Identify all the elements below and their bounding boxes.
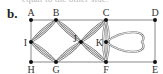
edge-I-G-2-outline bbox=[31, 42, 56, 62]
node-labels: ABCDEFGHIJK bbox=[24, 7, 159, 74]
node-label-F: F bbox=[103, 64, 109, 74]
node-label-G: G bbox=[52, 64, 59, 74]
node-label-I: I bbox=[24, 37, 27, 48]
node-label-C: C bbox=[103, 7, 110, 18]
node-label-D: D bbox=[151, 7, 158, 18]
node-C bbox=[104, 18, 108, 22]
node-label-J: J bbox=[73, 33, 77, 44]
edge-I-B-2-outline bbox=[31, 20, 56, 42]
node-label-K: K bbox=[96, 37, 104, 48]
node-I bbox=[29, 40, 33, 44]
node-A bbox=[29, 18, 33, 22]
node-K bbox=[104, 40, 108, 44]
node-label-E: E bbox=[152, 64, 158, 74]
node-J bbox=[79, 40, 83, 44]
node-label-B: B bbox=[53, 7, 60, 18]
loop-K-outline bbox=[106, 32, 143, 52]
node-D bbox=[153, 18, 157, 22]
loop-K bbox=[106, 32, 143, 52]
node-label-A: A bbox=[27, 7, 35, 18]
node-label-H: H bbox=[27, 64, 34, 74]
edge-G-J-2-outline bbox=[56, 42, 81, 62]
node-B bbox=[54, 18, 58, 22]
edges bbox=[31, 20, 155, 62]
graph-diagram: ABCDEFGHIJK bbox=[0, 0, 163, 74]
edge-B-J-2-outline bbox=[56, 20, 81, 42]
